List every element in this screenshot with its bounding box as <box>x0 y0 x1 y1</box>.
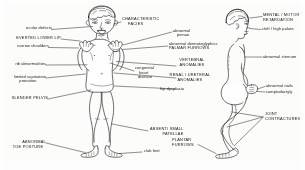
label-renal-anomalies-line2: ANOMALIES <box>162 78 218 83</box>
label-ocular-defects: ocular defects <box>2 26 52 31</box>
leader-everted-lip <box>61 39 80 41</box>
leader-palmar-furrows <box>123 46 169 50</box>
child-figure-lateral <box>216 9 258 158</box>
label-pronation: pronation <box>10 79 46 84</box>
leader-narrow-shoulders <box>49 48 79 49</box>
leader-club-feet <box>120 152 143 154</box>
label-plantar-furrows-line2: FURROWS <box>172 143 204 148</box>
label-rib-abnormalities: rib abnormalities <box>2 62 46 67</box>
label-cleft-high-palate: cleft / high palate <box>262 27 305 32</box>
leader-abnormal-pinnae <box>123 32 172 45</box>
label-abnormal-nails: abnormal nails <box>266 84 305 89</box>
infant-figure <box>78 6 124 157</box>
leader-mental-motor <box>250 17 262 19</box>
label-abnormal-toe-posture-line2: TOE POSTURE <box>3 145 53 150</box>
leader-cleft-palate <box>250 29 262 30</box>
leader-limited-supination <box>46 74 86 78</box>
label-vertebral-anomalies-line2: ANOMALIES <box>170 63 214 68</box>
label-narrow-shoulders: narrow shoulders <box>2 44 49 49</box>
label-club-feet: club feet <box>144 149 170 154</box>
leader-absent-patellae <box>112 124 148 131</box>
label-hip-dysplasia: hip dysplasia <box>160 87 194 92</box>
label-joint-contractures-line2: CONTRACTURES <box>265 117 305 122</box>
leader-slender-pelvis <box>48 90 91 99</box>
leader-abnormal-nails <box>258 87 266 90</box>
leader-ocular-defects <box>52 27 93 30</box>
label-abnormal-pinnae-line2: pinnae <box>177 33 207 38</box>
leader-joint-contractures-b <box>227 117 263 127</box>
label-characteristic-facies-line2: FACIES <box>128 22 168 27</box>
label-everted-lower-lip: EVERTED LOWER LIP <box>1 36 61 41</box>
diagram-canvas: .ln{fill:none;stroke:#161616;stroke-widt… <box>0 0 305 170</box>
leader-joint-contractures-c <box>234 118 263 147</box>
label-palmar-furrows: PALMAR FURROWS <box>169 46 221 51</box>
label-absent-patellae-line2: PATELLAE <box>150 132 196 137</box>
leader-camptodactyly <box>257 92 265 93</box>
label-abnormal-sternum: abnormal sternum <box>263 55 305 60</box>
label-camptodactyly: camptodactyly <box>266 90 305 95</box>
label-mental-motor-line2: RETARDATION <box>263 18 305 23</box>
label-slender-pelvis: SLENDER PELVIS <box>2 96 48 101</box>
